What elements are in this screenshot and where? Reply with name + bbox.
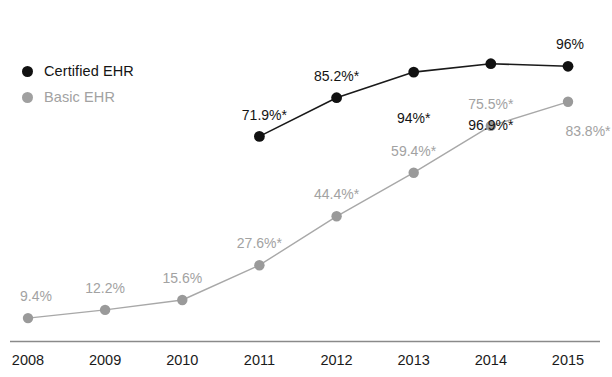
data-point-label: 15.6% — [162, 270, 202, 286]
data-point-marker[interactable] — [331, 211, 341, 221]
data-point-label: 27.6%* — [237, 235, 282, 251]
x-tick-label-2009: 2009 — [89, 352, 121, 368]
data-point-marker[interactable] — [563, 97, 573, 107]
data-point-label: 83.8%* — [565, 123, 610, 139]
x-tick-label-2012: 2012 — [320, 352, 352, 368]
data-point-label: 94%* — [397, 110, 430, 126]
data-point-marker[interactable] — [177, 295, 187, 305]
data-point-label: 9.4% — [20, 288, 52, 304]
legend-item-basic-ehr[interactable]: Basic EHR — [22, 84, 212, 110]
x-tick-label-2008: 2008 — [12, 352, 44, 368]
data-point-label: 85.2%* — [314, 68, 359, 84]
data-point-label: 96% — [556, 36, 584, 52]
legend-label-certified: Certified EHR — [44, 63, 134, 79]
legend-label-basic: Basic EHR — [44, 89, 115, 105]
data-point-marker[interactable] — [254, 260, 264, 270]
data-point-marker[interactable] — [563, 61, 574, 72]
data-point-label: 96.9%* — [468, 117, 513, 133]
data-point-marker[interactable] — [254, 131, 265, 142]
certified-ehr-markers — [254, 58, 573, 142]
data-point-label: 59.4%* — [391, 143, 436, 159]
x-tick-label-2014: 2014 — [475, 352, 507, 368]
data-point-marker[interactable] — [23, 313, 33, 323]
legend-item-certified-ehr[interactable]: Certified EHR — [22, 58, 212, 84]
x-tick-label-2013: 2013 — [398, 352, 430, 368]
data-point-marker[interactable] — [409, 168, 419, 178]
x-tick-label-2011: 2011 — [244, 352, 275, 368]
x-tick-label-2010: 2010 — [166, 352, 198, 368]
data-point-label: 75.5%* — [468, 96, 513, 112]
chart-legend: Certified EHR Basic EHR — [22, 58, 212, 110]
certified-ehr-line-group — [254, 58, 573, 142]
data-point-label: 71.9%* — [242, 107, 287, 123]
data-point-label: 44.4%* — [314, 186, 359, 202]
data-point-marker[interactable] — [100, 305, 110, 315]
legend-dot-icon-certified — [22, 66, 33, 77]
ehr-adoption-chart: Certified EHR Basic EHR 9.4%12.2%15.6%27… — [0, 0, 612, 377]
data-point-marker[interactable] — [485, 58, 496, 69]
data-point-marker[interactable] — [408, 67, 419, 78]
x-tick-label-2015: 2015 — [552, 352, 584, 368]
legend-dot-icon-basic — [22, 92, 33, 103]
data-point-marker[interactable] — [331, 92, 342, 103]
chart-plot-area — [0, 0, 612, 377]
data-point-label: 12.2% — [85, 280, 125, 296]
